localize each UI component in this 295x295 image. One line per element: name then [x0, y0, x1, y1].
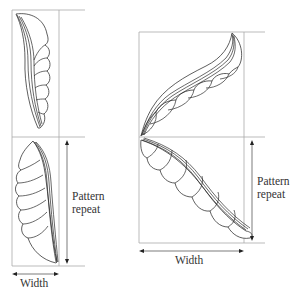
left-width-label: Width — [20, 277, 49, 289]
right-width-arrowhead-right — [239, 249, 244, 253]
right-repeat-arrowhead-down — [250, 236, 254, 241]
left-motif: Pattern repeat Width — [12, 10, 105, 289]
right-width-label: Width — [175, 254, 204, 266]
left-repeat-arrowhead-down — [65, 259, 69, 264]
right-lower-feather — [141, 138, 252, 238]
right-repeat-arrowhead-up — [250, 140, 254, 145]
right-width-arrowhead-left — [139, 249, 144, 253]
right-motif: Pattern repeat Width — [139, 32, 290, 266]
right-pattern-repeat-label-line1: Pattern — [257, 175, 290, 187]
left-pattern-repeat-label-line2: repeat — [72, 203, 101, 216]
right-upper-feather — [141, 33, 242, 136]
right-pattern-repeat-label-line2: repeat — [257, 188, 286, 201]
left-pattern-repeat-label-line1: Pattern — [72, 190, 105, 202]
left-repeat-arrowhead-up — [65, 140, 69, 145]
left-width-arrowhead-left — [12, 272, 17, 276]
left-width-arrowhead-right — [54, 272, 59, 276]
feather-pattern-diagram: Pattern repeat Width — [0, 0, 295, 295]
left-lower-feather — [15, 141, 58, 263]
left-upper-feather — [16, 14, 50, 128]
